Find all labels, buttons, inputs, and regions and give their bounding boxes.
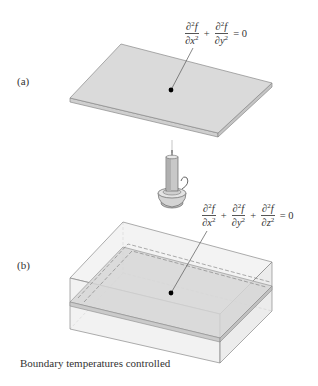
fraction-term: ∂2f ∂x2 bbox=[202, 203, 216, 228]
fraction-term: ∂2f ∂x2 bbox=[185, 21, 199, 46]
fraction-term: ∂2f ∂y2 bbox=[232, 203, 246, 228]
candle-icon bbox=[158, 140, 188, 208]
fraction-term: ∂2f ∂y2 bbox=[215, 21, 229, 46]
equation-a: ∂2f ∂x2 + ∂2f ∂y2 = 0 bbox=[184, 21, 251, 46]
diagram-canvas bbox=[0, 0, 318, 386]
point-marker-a bbox=[169, 88, 174, 93]
equation-b: ∂2f ∂x2 + ∂2f ∂y2 + ∂2f ∂z2 = 0 bbox=[201, 203, 298, 228]
panel-label-b: (b) bbox=[17, 259, 30, 271]
block-b bbox=[70, 222, 272, 363]
caption: Boundary temperatures controlled bbox=[20, 357, 170, 369]
panel-label-a: (a) bbox=[17, 75, 29, 87]
point-marker-b bbox=[169, 291, 174, 296]
fraction-term: ∂2f ∂z2 bbox=[261, 203, 275, 228]
plate-a bbox=[70, 44, 272, 137]
